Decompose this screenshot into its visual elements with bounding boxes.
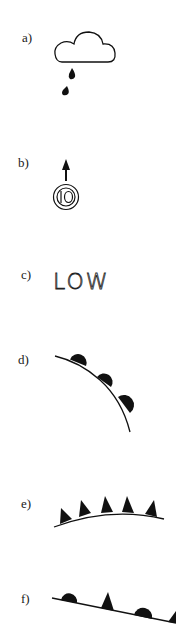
cloud-rain-icon bbox=[55, 32, 115, 95]
station-arrow-icon bbox=[54, 159, 79, 210]
occluded-front-icon bbox=[52, 592, 176, 623]
warm-front-icon bbox=[55, 354, 134, 432]
low-pressure-text: LOW bbox=[53, 269, 110, 294]
cold-front-icon bbox=[54, 496, 164, 527]
